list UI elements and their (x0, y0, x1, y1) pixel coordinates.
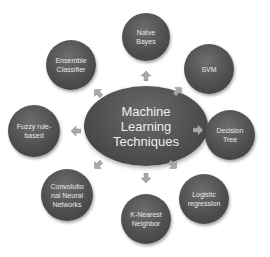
node-label: Ensemble Classifier (51, 56, 90, 74)
node-fuzzy-rule-based: Fuzzy rule- based (8, 105, 60, 157)
node-svm: SVM (184, 44, 234, 94)
node-logistic-regression: Logistic regression (179, 174, 229, 224)
arrow-icon-to-k-nearest-neighbor (141, 173, 151, 183)
node-label: Decision Tree (213, 126, 248, 144)
node-naive-bayes: Naïve Bayes (122, 13, 170, 61)
node-k-nearest-neighbor: K-Nearest Neighbor (121, 194, 171, 244)
node-label: Fuzzy rule- based (13, 122, 56, 140)
center-label: Machine Learning Techniques (113, 104, 179, 149)
node-label: Convolutio nal Neural Networks (46, 182, 87, 209)
node-label: Naïve Bayes (132, 28, 159, 46)
node-ensemble-classifier: Ensemble Classifier (46, 40, 96, 90)
ml-techniques-diagram: Machine Learning Techniques Naïve Bayes … (0, 0, 270, 257)
node-decision-tree: Decision Tree (205, 110, 255, 160)
node-label: SVM (197, 65, 220, 74)
arrow-icon-to-decision-tree (193, 125, 203, 135)
node-label: K-Nearest Neighbor (126, 210, 166, 228)
center-node: Machine Learning Techniques (84, 86, 208, 166)
node-cnn: Convolutio nal Neural Networks (41, 169, 93, 221)
arrow-icon-to-cnn (91, 158, 105, 172)
arrow-icon-to-fuzzy-rule-based (71, 126, 81, 136)
node-label: Logistic regression (184, 190, 225, 208)
arrow-icon-to-naive-bayes (141, 71, 151, 81)
